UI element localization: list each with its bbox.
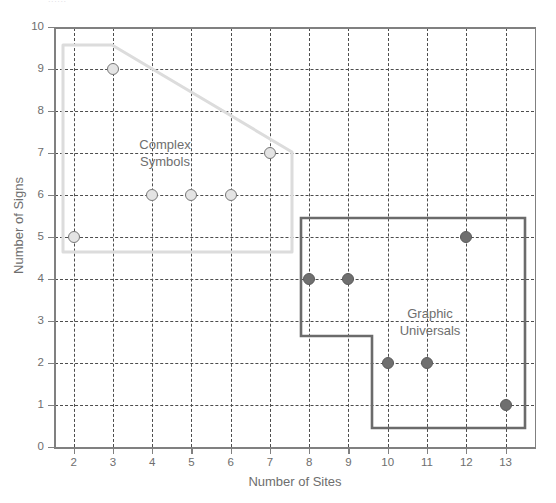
cluster-hulls [0, 0, 556, 503]
plot-frame-right [535, 27, 537, 448]
x-axis-tick [191, 447, 192, 454]
data-point [460, 231, 472, 243]
y-axis-tick-label: 0 [0, 441, 44, 453]
x-axis-tick [152, 447, 153, 454]
x-axis-tick [466, 447, 467, 454]
y-axis-tick-label: 2 [0, 357, 44, 369]
y-axis-tick [48, 27, 55, 28]
y-axis-tick [48, 321, 55, 322]
y-axis-tick-label: 3 [0, 315, 44, 327]
y-axis-tick [48, 195, 55, 196]
y-axis-tick [48, 153, 55, 154]
y-axis-title: Number of Signs [11, 136, 26, 316]
annotation-graphic-universals: Graphic Universals [370, 305, 490, 339]
gridline-horizontal [55, 363, 534, 364]
x-axis-tick-label: 6 [216, 456, 246, 468]
data-point [225, 189, 237, 201]
x-axis-tick-label: 8 [294, 456, 324, 468]
gridline-horizontal [55, 69, 534, 70]
gridline-horizontal [55, 405, 534, 406]
data-point [303, 273, 315, 285]
data-point [146, 189, 158, 201]
x-axis-tick [388, 447, 389, 454]
data-point [107, 63, 119, 75]
x-axis-tick-label: 4 [137, 456, 167, 468]
x-axis-tick-label: 13 [491, 456, 521, 468]
gridline-horizontal [55, 111, 534, 112]
x-axis-tick-label: 7 [255, 456, 285, 468]
x-axis-tick [74, 447, 75, 454]
y-axis-tick-label: 1 [0, 399, 44, 411]
clipped-header-text: ...... [48, 0, 288, 4]
x-axis-tick-label: 11 [412, 456, 442, 468]
y-axis-tick [48, 111, 55, 112]
y-axis-tick-label: 8 [0, 105, 44, 117]
x-axis-tick-label: 2 [59, 456, 89, 468]
x-axis-tick [113, 447, 114, 454]
y-axis-tick [48, 69, 55, 70]
data-point [68, 231, 80, 243]
y-axis-tick-label: 9 [0, 63, 44, 75]
x-axis-tick-label: 10 [373, 456, 403, 468]
x-axis-tick [427, 447, 428, 454]
data-point [185, 189, 197, 201]
y-axis-tick [48, 405, 55, 406]
data-point [382, 357, 394, 369]
x-axis-tick [309, 447, 310, 454]
data-point [264, 147, 276, 159]
x-axis-tick [231, 447, 232, 454]
data-point [421, 357, 433, 369]
y-axis-tick [48, 279, 55, 280]
annotation-complex-symbols: Complex Symbols [110, 136, 220, 170]
x-axis-tick [270, 447, 271, 454]
y-axis-tick [48, 363, 55, 364]
x-axis-tick-label: 3 [98, 456, 128, 468]
gridline-horizontal [55, 279, 534, 280]
x-axis-tick-label: 9 [333, 456, 363, 468]
data-point [500, 399, 512, 411]
y-axis-tick [48, 447, 55, 448]
scatter-plot-figure: ...... 012345678910 2345678910111213 Com… [0, 0, 556, 503]
x-axis-tick [348, 447, 349, 454]
data-point [342, 273, 354, 285]
x-axis-tick-label: 12 [451, 456, 481, 468]
y-axis-tick-label: 10 [0, 21, 44, 33]
x-axis-tick-label: 5 [176, 456, 206, 468]
x-axis-tick [506, 447, 507, 454]
plot-frame-top [54, 27, 536, 29]
y-axis-tick [48, 237, 55, 238]
x-axis-title: Number of Sites [54, 474, 536, 489]
gridline-horizontal [55, 195, 534, 196]
x-axis-line [54, 447, 536, 449]
